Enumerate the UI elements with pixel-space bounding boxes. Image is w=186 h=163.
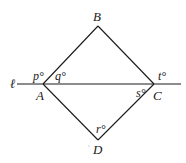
vertex-a-label: A xyxy=(35,88,44,103)
vertex-b-label: B xyxy=(93,9,101,24)
segment-bc xyxy=(98,26,154,84)
segment-ab xyxy=(43,26,98,84)
angle-p-label: p° xyxy=(32,69,44,83)
angle-s-label: s° xyxy=(136,86,146,100)
line-l-label: ℓ xyxy=(10,76,16,91)
geometry-diagram: ℓ B A C D p° q° t° s° r° xyxy=(0,0,186,163)
angle-q-label: q° xyxy=(55,69,66,83)
segment-ad xyxy=(43,84,98,140)
vertex-c-label: C xyxy=(153,88,162,103)
angle-r-label: r° xyxy=(96,122,106,136)
segment-dc xyxy=(98,84,154,140)
vertex-d-label: D xyxy=(92,142,103,157)
dot-mark xyxy=(88,145,89,146)
angle-t-label: t° xyxy=(158,69,166,83)
